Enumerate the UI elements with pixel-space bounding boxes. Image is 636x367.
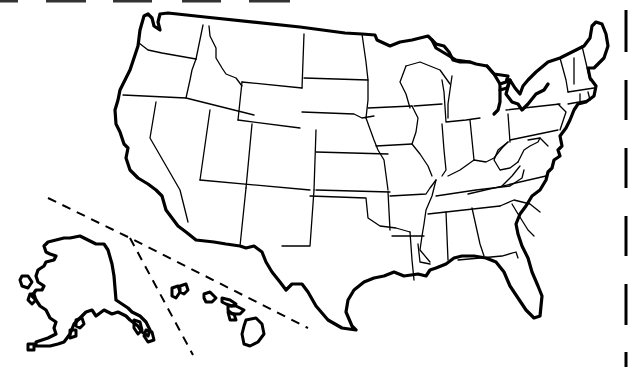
state-border-sd-ne — [302, 112, 374, 118]
state-border-id-west — [186, 59, 196, 98]
state-border-pa-east — [558, 104, 566, 130]
state-border-oh-pa — [508, 114, 510, 142]
state-border-nv-ut — [200, 110, 210, 180]
state-border-ia-south — [376, 144, 412, 146]
alaska-mainland — [32, 236, 150, 346]
state-border-wy-south — [238, 120, 300, 128]
state-border-ok-panhandle — [310, 196, 410, 232]
hawaii-island — [242, 318, 264, 346]
state-border-ia-il — [412, 106, 432, 176]
hawaii-inset — [172, 284, 264, 346]
state-border-mo-ar — [390, 180, 436, 196]
state-border-wi-mi-up — [406, 62, 450, 84]
state-border-id-mt — [209, 26, 242, 86]
upper-separator — [48, 198, 308, 328]
state-border-al-ga — [472, 208, 484, 256]
state-border-pa-north — [506, 104, 560, 110]
state-border-va-wv — [518, 138, 540, 162]
state-border-ca-nv — [150, 102, 188, 222]
state-border-ut-co — [246, 124, 252, 188]
state-border-tn-south — [428, 206, 500, 214]
hawaii-island — [228, 312, 236, 320]
lake-shoreline — [494, 90, 500, 114]
state-border-ok-ar — [388, 192, 390, 230]
alaska-island — [70, 330, 76, 338]
state-border-ut-az — [200, 180, 310, 190]
alaska-island — [20, 276, 32, 288]
inset-separators — [48, 198, 308, 355]
state-border-wy-north — [242, 82, 302, 88]
state-border-ky-tn — [436, 170, 524, 196]
state-border-ks-ok — [316, 190, 390, 192]
state-border-va-nc — [468, 176, 546, 194]
state-border-oh-ky — [448, 142, 508, 176]
state-border-nd-sd — [304, 78, 368, 80]
state-border-in-oh — [470, 120, 474, 160]
hawaii-island — [180, 284, 188, 294]
state-border-il-in — [442, 124, 446, 176]
alaska-hawaii-divider — [130, 238, 193, 355]
state-border-ny-vt — [560, 58, 568, 92]
state-border-mn-ia — [368, 106, 412, 108]
map-canvas — [0, 0, 636, 367]
alaska-inset — [20, 236, 154, 350]
state-border-mn-west — [362, 34, 368, 118]
state-border-wa-id — [196, 25, 203, 59]
state-border-nm-tx — [282, 190, 314, 246]
state-border-nc-sc — [500, 200, 540, 212]
alaska-island — [28, 344, 34, 350]
state-border-ny-ma — [568, 88, 594, 92]
state-border-ms-al — [446, 212, 448, 260]
state-border-co-east — [314, 130, 316, 190]
state-border-oh-wv — [494, 142, 518, 170]
state-border-mt-nd — [302, 34, 304, 88]
state-border-or-south — [123, 95, 254, 115]
us-outline-map — [0, 0, 636, 367]
state-border-wi-mn — [400, 66, 410, 108]
state-borders — [123, 25, 594, 280]
state-border-ar-ms — [420, 180, 436, 262]
state-border-id-wy — [238, 82, 242, 120]
state-border-wa-or — [139, 43, 196, 59]
state-border-az-nm — [240, 188, 246, 246]
hawaii-island — [204, 292, 216, 302]
state-border-ne-ks — [316, 152, 388, 154]
alaska-island — [28, 294, 36, 304]
state-border-tx-la — [410, 232, 414, 280]
state-border-wi-il — [414, 104, 442, 106]
alaska-island — [76, 318, 84, 328]
contiguous-us-outline — [115, 13, 608, 330]
